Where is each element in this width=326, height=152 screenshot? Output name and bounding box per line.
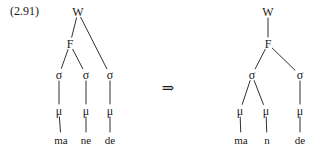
tree-node-label: σ (56, 69, 62, 81)
tree-edge (255, 49, 265, 68)
tree-node-label: W (262, 6, 273, 18)
tree-edge (266, 117, 267, 132)
tree-node-label: σ (83, 69, 89, 81)
tree-edge (59, 117, 60, 132)
prosodic-structure-figure: (2.91) WFσσσμμμmanede WFσσμμμmande ⇒ (0, 0, 326, 152)
tree-node-label: μ (263, 105, 269, 117)
tree-node-label: μ (56, 105, 62, 117)
tree-node-label: σ (107, 69, 113, 81)
terminal-label: ne (81, 134, 91, 146)
terminal-label: de (295, 134, 305, 146)
terminal-label: de (105, 134, 115, 146)
tree-node-label: μ (107, 105, 113, 117)
tree-edge (272, 48, 295, 70)
tree-node-label: W (72, 6, 83, 18)
tree-node-label: σ (297, 69, 303, 81)
tree-node-label: μ (237, 105, 243, 117)
tree-node-label: σ (249, 69, 255, 81)
terminal-label: n (264, 134, 270, 146)
tree-node-label: F (265, 38, 272, 50)
tree-edge (61, 50, 68, 69)
terminal-label: ma (54, 134, 67, 146)
example-number: (2.91) (10, 4, 39, 18)
tree-edge (73, 49, 83, 68)
tree-node-label: μ (297, 105, 303, 117)
tree-edge (242, 81, 250, 105)
tree-node-label: μ (83, 105, 89, 117)
tree-edge (240, 117, 241, 132)
terminal-label: ma (234, 134, 247, 146)
transformation-arrow-icon: ⇒ (162, 81, 175, 96)
tree-edge (81, 17, 107, 68)
tree-edge (254, 81, 263, 105)
tree-node-label: F (67, 38, 74, 50)
tree-edge (72, 18, 77, 37)
tree-edges (0, 0, 326, 152)
